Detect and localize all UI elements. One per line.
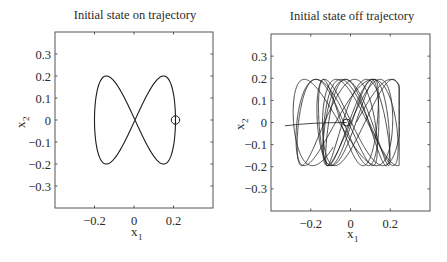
left-plot: Initial state on trajectory −0.200.20.30… bbox=[13, 8, 213, 242]
x-tick-label: 0.2 bbox=[382, 217, 398, 231]
svg-text:1: 1 bbox=[354, 234, 359, 244]
right-xlabel: x 1 bbox=[347, 226, 359, 244]
left-axes-frame bbox=[55, 32, 213, 208]
y-tick-label: 0.1 bbox=[35, 92, 51, 106]
right-trajectory-curve bbox=[285, 79, 399, 165]
right-ylabel: x 2 bbox=[232, 119, 250, 131]
svg-text:1: 1 bbox=[138, 232, 143, 242]
svg-text:2: 2 bbox=[240, 119, 250, 124]
right-plot-title: Initial state off trajectory bbox=[290, 9, 415, 23]
left-xlabel: x 1 bbox=[131, 224, 143, 242]
y-tick-label: 0 bbox=[45, 114, 51, 128]
x-tick-label: −0.2 bbox=[299, 217, 322, 231]
svg-text:x: x bbox=[13, 121, 28, 128]
x-tick-label: 0.2 bbox=[166, 214, 182, 228]
svg-text:2: 2 bbox=[21, 117, 31, 122]
y-tick-label: 0.2 bbox=[251, 72, 267, 86]
left-trajectory-curve bbox=[95, 76, 176, 164]
y-tick-label: 0.3 bbox=[251, 50, 267, 64]
left-ticks: −0.200.20.30.20.10−0.1−0.2−0.3 bbox=[28, 32, 213, 228]
y-tick-label: −0.3 bbox=[244, 182, 267, 196]
svg-text:x: x bbox=[232, 123, 247, 130]
y-tick-label: −0.1 bbox=[244, 138, 267, 152]
y-tick-label: −0.1 bbox=[28, 136, 51, 150]
y-tick-label: 0.3 bbox=[35, 48, 51, 62]
svg-text:x: x bbox=[347, 226, 354, 241]
y-tick-label: −0.2 bbox=[28, 158, 51, 172]
y-tick-label: 0 bbox=[261, 116, 267, 130]
right-ticks: −0.200.20.30.20.10−0.1−0.2−0.3 bbox=[244, 34, 430, 231]
svg-text:x: x bbox=[131, 224, 138, 239]
y-tick-label: −0.2 bbox=[244, 160, 267, 174]
y-tick-label: −0.3 bbox=[28, 180, 51, 194]
x-tick-label: −0.2 bbox=[83, 214, 106, 228]
right-plot: Initial state off trajectory −0.200.20.3… bbox=[232, 9, 430, 244]
left-plot-title: Initial state on trajectory bbox=[74, 8, 197, 22]
y-tick-label: 0.2 bbox=[35, 70, 51, 84]
left-ylabel: x 2 bbox=[13, 117, 31, 129]
figure: Initial state on trajectory −0.200.20.30… bbox=[0, 0, 447, 262]
y-tick-label: 0.1 bbox=[251, 94, 267, 108]
